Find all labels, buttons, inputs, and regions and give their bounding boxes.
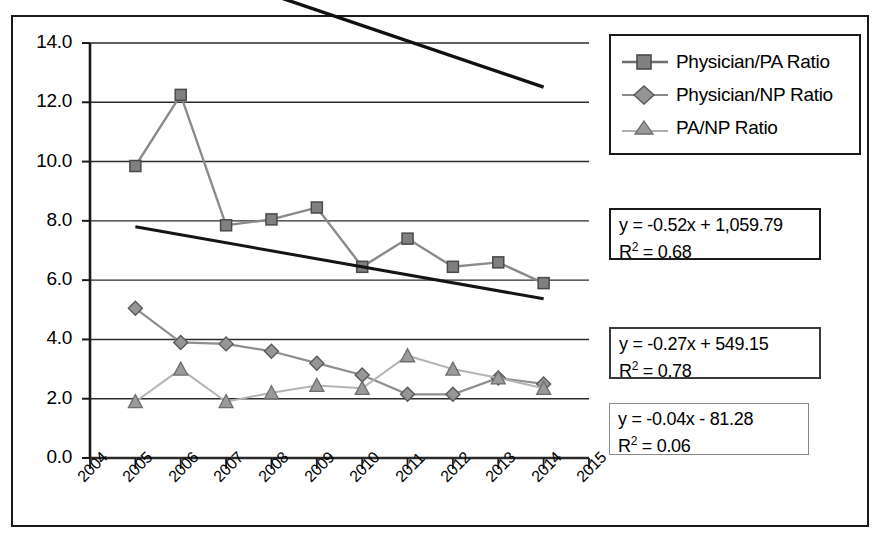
data-point-marker <box>401 349 415 362</box>
y-tick-label: 0.0 <box>12 446 72 468</box>
r-label-1: R <box>619 242 632 262</box>
r-squared-text-1: R2 = 0.68 <box>619 236 819 263</box>
data-point-marker <box>174 362 188 375</box>
legend-label-pa-np: PA/NP Ratio <box>676 117 778 139</box>
data-point-marker <box>311 202 322 213</box>
data-point-marker <box>402 233 413 244</box>
data-point-marker <box>493 257 504 268</box>
legend-label-physician-pa: Physician/PA Ratio <box>676 51 830 73</box>
chart-legend: Physician/PA Ratio Physician/NP Ratio PA… <box>609 34 861 155</box>
y-tick-label: 4.0 <box>12 327 72 349</box>
equation-text-1: y = -0.52x + 1,059.79 <box>619 214 819 236</box>
y-tick-label: 6.0 <box>12 268 72 290</box>
diamond-marker-icon <box>621 85 669 105</box>
series-line <box>135 356 543 402</box>
data-point-marker <box>128 395 142 408</box>
legend-item-physician-np: Physician/NP Ratio <box>621 78 859 111</box>
legend-item-pa-np: PA/NP Ratio <box>621 111 859 144</box>
r-value-1: = 0.68 <box>638 242 691 262</box>
r-squared-text-3: R2 = 0.06 <box>618 430 808 457</box>
data-point-marker <box>175 89 186 100</box>
trendline-equation-box-physician-pa: y = -0.52x + 1,059.79 R2 = 0.68 <box>609 208 821 260</box>
series-line <box>135 95 543 283</box>
r-label-2: R <box>619 361 632 381</box>
y-tick-label: 10.0 <box>12 150 72 172</box>
y-tick-label: 14.0 <box>12 31 72 53</box>
equation-text-2: y = -0.27x + 549.15 <box>619 333 819 355</box>
r-value-2: = 0.78 <box>638 361 691 381</box>
data-point-marker <box>538 278 549 289</box>
y-tick-label: 2.0 <box>12 387 72 409</box>
data-point-marker <box>221 220 232 231</box>
r-label-3: R <box>618 436 631 456</box>
r-value-3: = 0.06 <box>637 436 690 456</box>
chart-page: 14.012.010.08.06.04.02.00.0 200420052006… <box>0 0 882 542</box>
y-tick-label: 8.0 <box>12 209 72 231</box>
data-point-marker <box>310 356 324 370</box>
square-marker-icon <box>621 52 669 72</box>
y-tick-label: 12.0 <box>12 90 72 112</box>
equation-text-3: y = -0.04x - 81.28 <box>618 408 808 430</box>
trendline-equation-box-physician-np: y = -0.27x + 549.15 R2 = 0.78 <box>609 327 821 379</box>
legend-item-physician-pa: Physician/PA Ratio <box>621 45 859 78</box>
data-point-marker <box>130 161 141 172</box>
data-point-marker <box>266 214 277 225</box>
data-point-marker <box>264 344 278 358</box>
data-point-marker <box>355 368 369 382</box>
r-squared-text-2: R2 = 0.78 <box>619 355 819 382</box>
data-point-marker <box>447 261 458 272</box>
triangle-marker-icon <box>621 118 669 138</box>
legend-label-physician-np: Physician/NP Ratio <box>676 84 833 106</box>
trendline-equation-box-pa-np: y = -0.04x - 81.28 R2 = 0.06 <box>609 403 809 455</box>
